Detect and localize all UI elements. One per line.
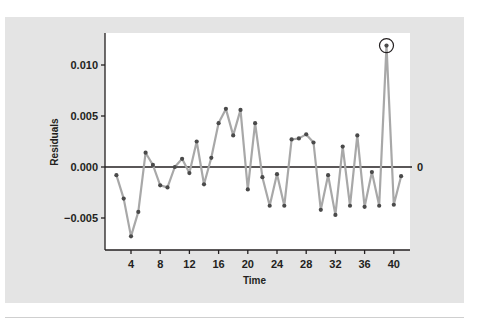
- data-point: [165, 185, 169, 189]
- data-point: [384, 44, 388, 48]
- data-point: [377, 204, 381, 208]
- y-tick-label: 0.010: [70, 59, 98, 71]
- data-point: [392, 203, 396, 207]
- data-point: [217, 121, 221, 125]
- x-tick-label: 20: [242, 258, 254, 270]
- data-point: [136, 210, 140, 214]
- x-tick-label: 40: [388, 258, 400, 270]
- x-tick-label: 28: [300, 258, 312, 270]
- y-axis-label: Residuals: [49, 118, 60, 166]
- x-axis-label: Time: [243, 275, 267, 286]
- data-point: [304, 132, 308, 136]
- data-point: [268, 204, 272, 208]
- y-tick-label: 0.005: [70, 110, 98, 122]
- data-point: [114, 173, 118, 177]
- y-tick-label: −0.005: [64, 212, 98, 224]
- y-tick-label: 0.000: [70, 161, 98, 173]
- x-axis-ticks: 481216202428323640: [128, 250, 400, 270]
- data-point: [122, 197, 126, 201]
- data-point: [158, 183, 162, 187]
- data-point: [363, 205, 367, 209]
- data-point: [202, 182, 206, 186]
- data-point: [187, 171, 191, 175]
- zero-reference-label: 0: [417, 161, 423, 173]
- x-tick-label: 4: [128, 258, 135, 270]
- data-point: [253, 121, 257, 125]
- data-point: [341, 145, 345, 149]
- data-point: [282, 204, 286, 208]
- data-point: [311, 140, 315, 144]
- data-point: [260, 175, 264, 179]
- data-point: [209, 156, 213, 160]
- data-point: [238, 108, 242, 112]
- data-point: [297, 136, 301, 140]
- data-point: [348, 204, 352, 208]
- data-point: [319, 208, 323, 212]
- data-point: [399, 174, 403, 178]
- data-point: [275, 172, 279, 176]
- data-point: [326, 173, 330, 177]
- data-point: [290, 137, 294, 141]
- data-point: [180, 157, 184, 161]
- x-tick-label: 12: [183, 258, 195, 270]
- data-point: [333, 213, 337, 217]
- x-tick-label: 8: [157, 258, 163, 270]
- data-point: [370, 170, 374, 174]
- x-tick-label: 32: [329, 258, 341, 270]
- x-tick-label: 24: [271, 258, 284, 270]
- data-point: [195, 139, 199, 143]
- y-axis-ticks: 0.0100.0050.000−0.005: [64, 59, 105, 224]
- data-point: [224, 107, 228, 111]
- data-point: [144, 151, 148, 155]
- data-point: [129, 234, 133, 238]
- data-point: [246, 187, 250, 191]
- data-point: [355, 133, 359, 137]
- residuals-line-chart: 0.0100.0050.000−0.005 481216202428323640…: [0, 0, 481, 329]
- x-tick-label: 36: [358, 258, 370, 270]
- data-point: [231, 133, 235, 137]
- x-tick-label: 16: [212, 258, 224, 270]
- data-point: [173, 165, 177, 169]
- data-point: [151, 163, 155, 167]
